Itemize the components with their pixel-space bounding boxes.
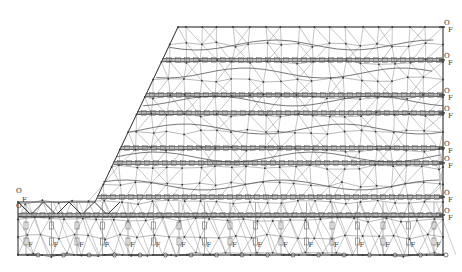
svg-text:O: O <box>16 187 22 195</box>
svg-text:F: F <box>448 147 453 155</box>
svg-text:F: F <box>79 241 84 249</box>
triangular-mesh <box>17 26 444 258</box>
svg-text:F: F <box>130 241 135 249</box>
svg-text:F: F <box>411 241 416 249</box>
svg-text:F: F <box>385 241 390 249</box>
svg-text:F: F <box>448 94 453 102</box>
svg-text:F: F <box>28 241 33 249</box>
svg-text:F: F <box>334 241 339 249</box>
svg-text:F: F <box>448 196 453 204</box>
svg-text:F: F <box>448 162 453 170</box>
svg-text:F: F <box>360 241 365 249</box>
svg-text:F: F <box>22 196 27 204</box>
svg-text:F: F <box>156 241 161 249</box>
svg-text:F: F <box>181 241 186 249</box>
slope-mesh-diagram: FFFFFFFFFFFFFFFFF OFOFOFOFOFOFOFOFOFO <box>0 0 462 272</box>
svg-text:F: F <box>448 112 453 120</box>
svg-text:O: O <box>16 202 22 210</box>
svg-text:F: F <box>309 241 314 249</box>
svg-text:F: F <box>258 241 263 249</box>
svg-text:F: F <box>448 59 453 67</box>
svg-text:F: F <box>448 26 453 34</box>
base-piles: FFFFFFFFFFFFFFFFF <box>18 202 456 257</box>
svg-text:F: F <box>232 241 237 249</box>
svg-text:F: F <box>448 214 453 222</box>
svg-text:F: F <box>54 241 59 249</box>
svg-text:F: F <box>436 241 441 249</box>
svg-text:F: F <box>283 241 288 249</box>
svg-text:F: F <box>207 241 212 249</box>
node-labels: OFOFOFOFOFOFOFOFOFO <box>16 19 453 222</box>
svg-text:F: F <box>105 241 110 249</box>
